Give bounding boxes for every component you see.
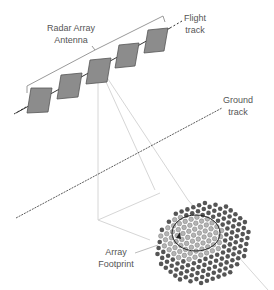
antenna-label: Radar Array Antenna [46,22,96,46]
antenna-label-line2: Antenna [46,34,96,46]
flight-track-label: Flight track [180,12,210,36]
footprint-label-line2: Footprint [96,258,136,270]
footprint-label-line1: Array [96,246,136,258]
radar-array-diagram: Radar Array Antenna Flight track Ground … [0,0,274,290]
ground-track-label-line1: Ground [218,94,258,106]
flight-track-label-line2: track [180,24,210,36]
footprint-leader [135,245,158,253]
footprint-dots [155,201,251,286]
ground-track-label-line2: track [218,106,258,118]
footprint-label: Array Footprint [96,246,136,270]
ground-track [16,108,222,218]
antenna-label-line1: Radar Array [46,22,96,34]
flight-track-label-line1: Flight [180,12,210,24]
diagram-graphic [0,0,274,290]
ground-track-label: Ground track [218,94,258,118]
